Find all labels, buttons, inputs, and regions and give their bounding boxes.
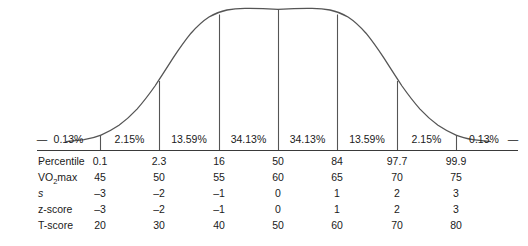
- cell-vo2max-5: 65: [307, 169, 367, 185]
- cell-s-6: 2: [367, 185, 427, 201]
- band-percent-2: 13.59%: [159, 128, 219, 150]
- cell-zscore-3: –1: [189, 201, 249, 217]
- cell-tscore-7: 80: [426, 217, 486, 233]
- cell-tscore-6: 70: [367, 217, 427, 233]
- cell-s-1: –3: [70, 185, 130, 201]
- cell-tscore-5: 60: [307, 217, 367, 233]
- cell-percentile-5: 84: [307, 153, 367, 169]
- cell-tscore-3: 40: [189, 217, 249, 233]
- cell-percentile-4: 50: [248, 153, 308, 169]
- cell-vo2max-1: 45: [70, 169, 130, 185]
- cell-percentile-3: 16: [189, 153, 249, 169]
- cell-s-2: –2: [129, 185, 189, 201]
- cell-s-5: 1: [307, 185, 367, 201]
- band-percent-4: 34.13%: [278, 128, 337, 150]
- cell-zscore-2: –2: [129, 201, 189, 217]
- band-tail-dash-left: —: [34, 128, 50, 150]
- band-percent-6: 2.15%: [397, 128, 456, 150]
- cell-percentile-6: 97.7: [367, 153, 427, 169]
- band-percent-1: 2.15%: [100, 128, 159, 150]
- table-row: T-score 20 30 40 50 60 70 80: [0, 217, 528, 233]
- cell-tscore-4: 50: [248, 217, 308, 233]
- band-percent-3: 34.13%: [219, 128, 278, 150]
- cell-tscore-2: 30: [129, 217, 189, 233]
- cell-s-3: –1: [189, 185, 249, 201]
- cell-s-4: 0: [248, 185, 308, 201]
- row-label-s: s: [38, 185, 43, 201]
- percentage-band: 0.13% — 2.15% 13.59% 34.13% 34.13% 13.59…: [0, 128, 528, 150]
- cell-percentile-7: 99.9: [426, 153, 486, 169]
- cell-vo2max-7: 75: [426, 169, 486, 185]
- normal-curve-figure: 0.13% — 2.15% 13.59% 34.13% 34.13% 13.59…: [0, 0, 528, 246]
- row-label-t-score: T-score: [38, 217, 73, 233]
- cell-vo2max-6: 70: [367, 169, 427, 185]
- cell-zscore-4: 0: [248, 201, 308, 217]
- cell-vo2max-2: 50: [129, 169, 189, 185]
- table-row: z-score –3 –2 –1 0 1 2 3: [0, 201, 528, 217]
- cell-zscore-6: 2: [367, 201, 427, 217]
- cell-vo2max-4: 60: [248, 169, 308, 185]
- row-label-z-score: z-score: [38, 201, 72, 217]
- cell-percentile-2: 2.3: [129, 153, 189, 169]
- band-tail-dash-right: —: [505, 128, 521, 150]
- scale-table: Percentile 0.1 2.3 16 50 84 97.7 99.9 VO…: [0, 153, 528, 233]
- cell-tscore-1: 20: [70, 217, 130, 233]
- cell-vo2max-3: 55: [189, 169, 249, 185]
- band-percent-5: 13.59%: [337, 128, 397, 150]
- cell-zscore-1: –3: [70, 201, 130, 217]
- cell-zscore-7: 3: [426, 201, 486, 217]
- baseline-rule: [37, 150, 518, 151]
- table-row: s –3 –2 –1 0 1 2 3: [0, 185, 528, 201]
- cell-percentile-1: 0.1: [70, 153, 130, 169]
- table-row: VO2max 45 50 55 60 65 70 75: [0, 169, 528, 185]
- band-percent-tail-right: 0.13%: [458, 128, 510, 150]
- cell-zscore-5: 1: [307, 201, 367, 217]
- table-row: Percentile 0.1 2.3 16 50 84 97.7 99.9: [0, 153, 528, 169]
- cell-s-7: 3: [426, 185, 486, 201]
